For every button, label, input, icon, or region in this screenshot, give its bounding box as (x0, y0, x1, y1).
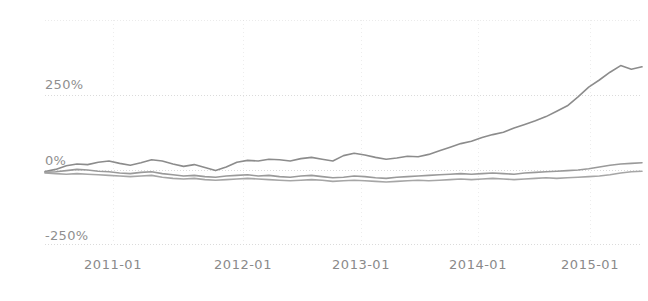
ytick-label-neg250: -250% (45, 229, 88, 242)
series-group (45, 66, 642, 182)
xtick-label-2015-01: 2015-01 (561, 258, 619, 271)
xtick-label-2012-01: 2012-01 (214, 258, 272, 271)
series-line-series-1 (45, 66, 642, 172)
xtick-label-2011-01: 2011-01 (84, 258, 142, 271)
xtick-label-2014-01: 2014-01 (449, 258, 507, 271)
xtick-label-2013-01: 2013-01 (332, 258, 390, 271)
chart-plot-area (0, 0, 648, 301)
chart-container: 250% 0% -250% 2011-01 2012-01 2013-01 20… (0, 0, 648, 301)
ytick-label-250: 250% (45, 78, 83, 91)
gridlines-group (45, 20, 642, 244)
ytick-label-0: 0% (45, 154, 66, 167)
